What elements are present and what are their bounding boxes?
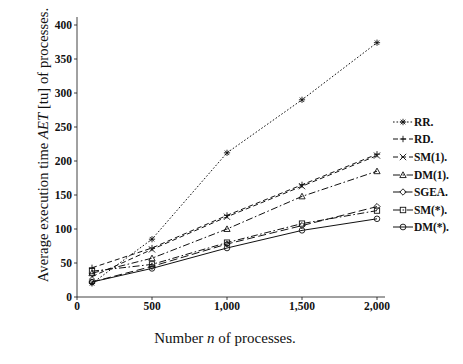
- legend-item[interactable]: SM(1).: [392, 148, 462, 166]
- legend-item[interactable]: DM(1).: [392, 166, 462, 184]
- legend-item-label: SM(1).: [414, 151, 447, 163]
- x-marker: [392, 149, 414, 165]
- triangle-marker: [392, 167, 414, 183]
- legend-item[interactable]: SM(*).: [392, 201, 462, 219]
- legend-item[interactable]: RR.: [392, 113, 462, 131]
- legend-item-label: RD.: [414, 133, 433, 145]
- square-marker: [392, 202, 414, 218]
- circle-marker: [392, 219, 414, 235]
- legend-item[interactable]: SGEA.: [392, 183, 462, 201]
- legend-item-label: SM(*).: [414, 204, 447, 216]
- plus-marker: [392, 131, 414, 147]
- legend-item[interactable]: DM(*).: [392, 219, 462, 237]
- legend-item-label: DM(1).: [414, 169, 449, 181]
- legend-item-label: SGEA.: [414, 186, 448, 198]
- chart-page: Average execution time AET [tu] of proce…: [0, 0, 463, 364]
- asterisk-marker: [392, 114, 414, 130]
- diamond-marker: [392, 184, 414, 200]
- legend-item-label: RR.: [414, 116, 433, 128]
- legend-item-label: DM(*).: [414, 221, 449, 233]
- legend: RR.RD.SM(1).DM(1).SGEA.SM(*).DM(*).: [392, 113, 462, 236]
- legend-item[interactable]: RD.: [392, 131, 462, 149]
